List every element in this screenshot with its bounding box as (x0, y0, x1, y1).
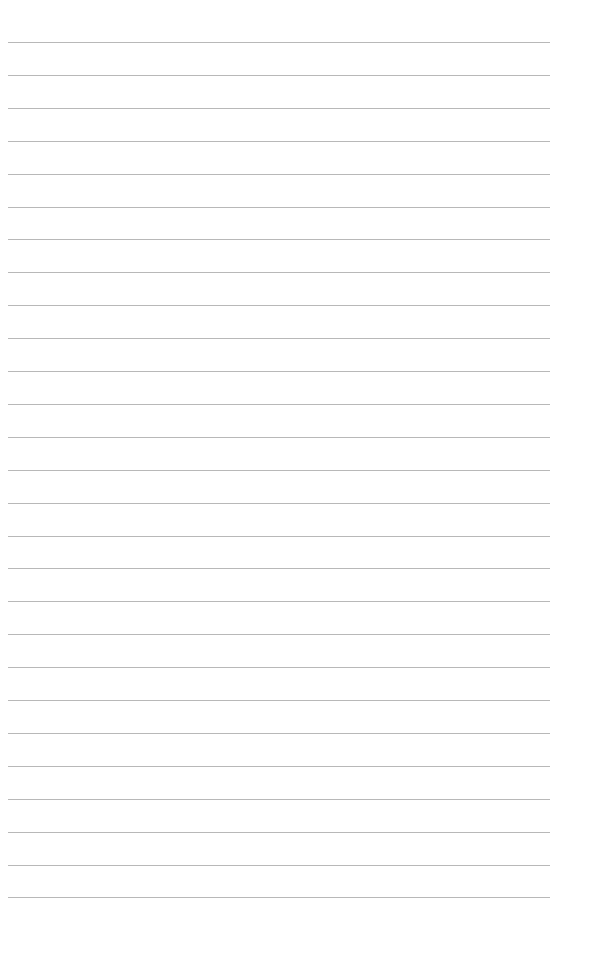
ruled-line (8, 601, 550, 602)
ruled-line (8, 634, 550, 635)
ruled-line (8, 503, 550, 504)
ruled-line (8, 700, 550, 701)
lined-paper-page (0, 0, 609, 954)
ruled-line (8, 42, 550, 43)
ruled-line (8, 799, 550, 800)
ruled-line (8, 174, 550, 175)
ruled-line (8, 75, 550, 76)
ruled-line (8, 108, 550, 109)
ruled-line (8, 766, 550, 767)
ruled-line (8, 568, 550, 569)
ruled-line (8, 141, 550, 142)
ruled-line (8, 239, 550, 240)
ruled-line (8, 404, 550, 405)
ruled-line (8, 338, 550, 339)
ruled-line (8, 897, 550, 898)
ruled-line (8, 832, 550, 833)
ruled-line (8, 371, 550, 372)
ruled-line (8, 733, 550, 734)
ruled-line (8, 536, 550, 537)
ruled-line (8, 470, 550, 471)
ruled-line (8, 272, 550, 273)
ruled-line (8, 437, 550, 438)
ruled-line (8, 207, 550, 208)
ruled-line (8, 305, 550, 306)
ruled-line (8, 667, 550, 668)
ruled-line (8, 865, 550, 866)
